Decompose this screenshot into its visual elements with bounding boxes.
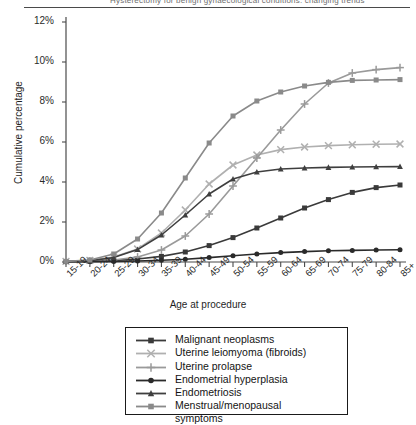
y-tick-label: 2%: [14, 215, 54, 226]
legend-item: Endometriosis: [132, 386, 347, 399]
chart-legend: Malignant neoplasmsUterine leiomyoma (fi…: [125, 327, 348, 415]
x-axis-title: Age at procedure: [0, 299, 416, 310]
legend-item: Malignant neoplasms: [132, 333, 347, 346]
running-head: Hysterectomy for benign gynaecological c…: [0, 0, 416, 9]
figure-root: Hysterectomy for benign gynaecological c…: [0, 0, 416, 425]
series-uterine-leiomyoma-fibroids: [63, 141, 404, 265]
legend-label: Uterine prolapse: [172, 360, 252, 373]
legend-marker-circle-icon: [132, 373, 172, 386]
legend-label: Uterine leiomyoma (fibroids): [172, 346, 306, 359]
legend-label: Endometriosis: [172, 386, 242, 399]
y-tick-label: 10%: [14, 55, 54, 66]
series-layer: [62, 64, 404, 266]
running-head-rule: [24, 7, 410, 8]
y-axis-title: Cumulative percentage: [13, 68, 24, 198]
line-chart: 0%2%4%6%8%10%12% 15-1920-2425-2930-3435-…: [0, 9, 416, 319]
legend-item: Menstrual/menopausal symptoms: [132, 399, 347, 425]
legend-item: Uterine leiomyoma (fibroids): [132, 346, 347, 359]
legend-label: Malignant neoplasms: [172, 333, 274, 346]
legend-marker-x-icon: [132, 346, 172, 359]
legend-marker-plus-icon: [132, 360, 172, 373]
y-tick-label: 12%: [14, 15, 54, 26]
legend-item: Uterine prolapse: [132, 360, 347, 373]
legend-marker-triangle-icon: [132, 386, 172, 399]
legend-marker-square-icon: [132, 399, 172, 412]
legend-label: Endometrial hyperplasia: [172, 373, 288, 386]
legend-label: Menstrual/menopausal symptoms: [172, 399, 281, 424]
legend-item: Endometrial hyperplasia: [132, 373, 347, 386]
running-head-text: Hysterectomy for benign gynaecological c…: [110, 0, 365, 5]
y-tick-label: 0%: [14, 255, 54, 266]
legend-marker-square-icon: [132, 333, 172, 346]
